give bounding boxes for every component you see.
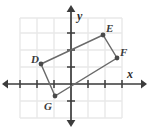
x-axis-right-arrow-icon <box>141 80 147 89</box>
x-axis-left-arrow-icon <box>2 80 8 89</box>
y-axis-label: y <box>75 9 83 23</box>
vertex-label-d: D <box>30 53 39 65</box>
axes-group <box>2 5 147 127</box>
vertex-point-g <box>53 94 58 99</box>
vertex-point-d <box>39 62 44 67</box>
coordinate-plane-svg: DEFG x y <box>0 0 147 128</box>
vertex-point-f <box>115 56 120 61</box>
y-axis-bottom-arrow-icon <box>67 120 76 127</box>
coordinate-plane-figure: DEFG x y <box>0 0 147 128</box>
y-axis-top-arrow-icon <box>67 5 76 12</box>
x-axis-label: x <box>126 67 133 81</box>
vertex-label-e: E <box>105 22 113 34</box>
vertex-label-f: F <box>119 46 128 58</box>
vertex-label-g: G <box>44 100 52 112</box>
vertex-point-e <box>101 33 106 38</box>
